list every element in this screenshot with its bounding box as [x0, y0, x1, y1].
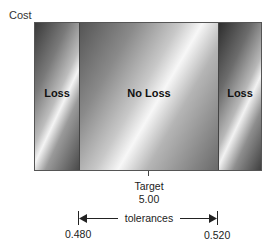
loss-region-left: Loss	[35, 23, 80, 170]
no-loss-label: No Loss	[80, 87, 218, 99]
tolerances-label: tolerances	[119, 212, 179, 224]
loss-region-right: Loss	[219, 23, 261, 170]
cost-chart-box: Loss No Loss Loss	[34, 22, 262, 171]
no-loss-region: No Loss	[80, 23, 219, 170]
lower-tolerance-value: 0.480	[65, 228, 91, 240]
upper-tolerance-value: 0.520	[204, 229, 230, 241]
loss-label-left: Loss	[35, 87, 79, 99]
target-tick	[148, 171, 149, 176]
left-arrowhead-icon	[79, 214, 87, 223]
y-axis-label: Cost	[9, 9, 32, 21]
target-label: Target	[119, 180, 179, 192]
upper-tolerance-cap	[217, 211, 218, 225]
right-arrowhead-icon	[209, 214, 217, 223]
target-value: 5.00	[119, 193, 179, 205]
loss-label-right: Loss	[219, 87, 261, 99]
